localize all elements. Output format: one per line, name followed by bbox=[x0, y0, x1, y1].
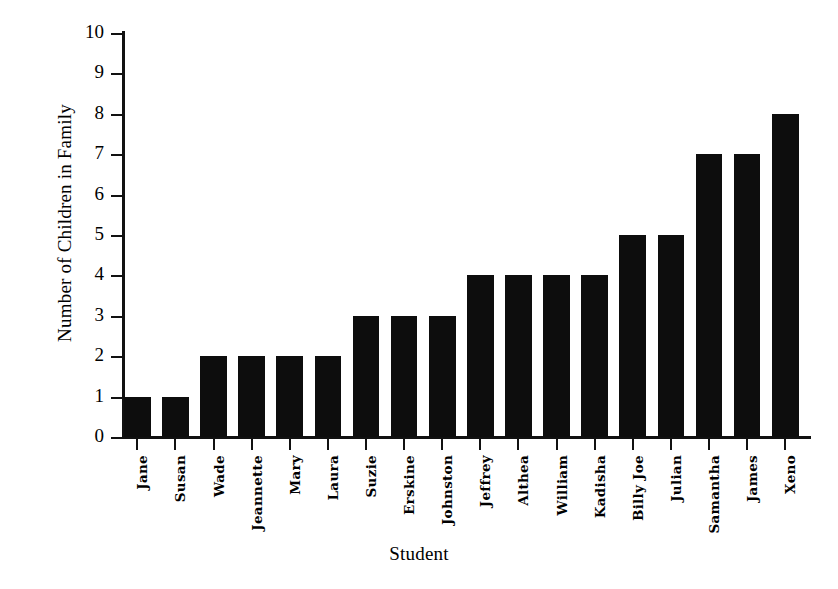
x-tick bbox=[441, 439, 443, 450]
x-tick-label-text: Suzie bbox=[363, 455, 379, 497]
x-tick-label-text: Erskine bbox=[401, 455, 417, 515]
x-tick-label-text: Althea bbox=[515, 455, 531, 506]
x-tick-label-text: Jeannette bbox=[249, 455, 265, 531]
x-tick bbox=[327, 439, 329, 450]
y-tick-8: 8 bbox=[111, 114, 123, 116]
bar bbox=[200, 356, 227, 437]
x-tick bbox=[708, 439, 710, 450]
bar bbox=[543, 275, 570, 437]
bar bbox=[276, 356, 303, 437]
x-tick bbox=[479, 439, 481, 450]
x-tick-label-text: Susan bbox=[172, 455, 188, 502]
bar bbox=[238, 356, 265, 437]
y-tick-label: 5 bbox=[95, 223, 105, 245]
x-tick bbox=[670, 439, 672, 450]
y-tick-1: 1 bbox=[111, 397, 123, 399]
x-tick bbox=[213, 439, 215, 450]
y-tick-label: 9 bbox=[95, 61, 105, 83]
x-tick bbox=[594, 439, 596, 450]
bar bbox=[391, 316, 418, 437]
x-tick-label-text: Johnston bbox=[439, 455, 455, 525]
x-tick-label-text: Jane bbox=[134, 455, 150, 490]
x-tick-label-text: Mary bbox=[287, 455, 303, 495]
y-tick-4: 4 bbox=[111, 275, 123, 277]
y-tick-label: 10 bbox=[85, 21, 104, 43]
x-tick bbox=[784, 439, 786, 450]
y-tick-2: 2 bbox=[111, 356, 123, 358]
y-tick-0: 0 bbox=[111, 437, 123, 439]
x-axis-title: Student bbox=[0, 543, 838, 565]
x-tick bbox=[365, 439, 367, 450]
x-tick bbox=[251, 439, 253, 450]
x-tick bbox=[517, 439, 519, 450]
bar bbox=[124, 397, 151, 437]
x-tick-label-text: Samantha bbox=[706, 455, 722, 534]
y-tick-10: 10 bbox=[111, 33, 123, 35]
x-tick bbox=[174, 439, 176, 450]
bar bbox=[429, 316, 456, 437]
x-tick-label-text: Jeffrey bbox=[477, 455, 493, 507]
bar bbox=[696, 154, 723, 437]
y-tick-5: 5 bbox=[111, 235, 123, 237]
x-tick bbox=[289, 439, 291, 450]
x-tick bbox=[136, 439, 138, 450]
y-tick-3: 3 bbox=[111, 316, 123, 318]
x-tick-label-text: Wade bbox=[211, 455, 227, 497]
y-tick-label: 0 bbox=[95, 425, 105, 447]
x-tick-label-text: James bbox=[744, 455, 760, 502]
x-tick bbox=[556, 439, 558, 450]
y-tick-6: 6 bbox=[111, 195, 123, 197]
bar bbox=[467, 275, 494, 437]
bar bbox=[581, 275, 608, 437]
y-tick-label: 3 bbox=[95, 304, 105, 326]
y-tick-label: 7 bbox=[95, 142, 105, 164]
x-tick bbox=[403, 439, 405, 450]
bar bbox=[734, 154, 761, 437]
bar bbox=[505, 275, 532, 437]
bar bbox=[353, 316, 380, 437]
y-tick-label: 2 bbox=[95, 344, 105, 366]
x-tick-label-text: Laura bbox=[325, 455, 341, 500]
y-tick-label: 8 bbox=[95, 102, 105, 124]
bar bbox=[162, 397, 189, 437]
bar bbox=[772, 114, 799, 437]
y-tick-7: 7 bbox=[111, 154, 123, 156]
x-tick-label-text: Julian bbox=[668, 455, 684, 502]
x-tick bbox=[746, 439, 748, 450]
x-tick-label-text: William bbox=[554, 455, 570, 516]
x-tick-label-text: Kadisha bbox=[592, 455, 608, 518]
x-tick-label-text: Xeno bbox=[782, 455, 798, 494]
x-tick-label-text: Billy Joe bbox=[630, 455, 646, 521]
y-tick-label: 6 bbox=[95, 183, 105, 205]
y-tick-label: 4 bbox=[95, 263, 105, 285]
y-axis-title: Number of Children in Family bbox=[54, 23, 76, 423]
x-tick bbox=[632, 439, 634, 450]
bar bbox=[619, 235, 646, 437]
y-tick-label: 1 bbox=[95, 385, 105, 407]
bar-chart: Number of Children in Family 01234567891… bbox=[0, 0, 838, 589]
bar bbox=[315, 356, 342, 437]
bar bbox=[658, 235, 685, 437]
y-tick-9: 9 bbox=[111, 73, 123, 75]
